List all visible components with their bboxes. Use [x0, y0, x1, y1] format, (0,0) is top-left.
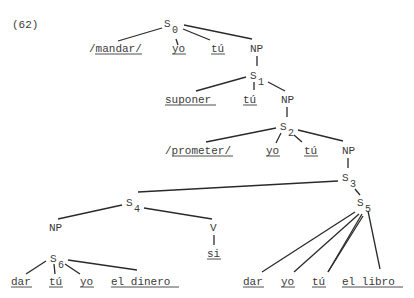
- syntax-tree-diagram: (62) S 0 /mandar/ yo tú NP S 1 suponer t…: [0, 0, 414, 298]
- svg-text:suponer: suponer: [165, 94, 211, 106]
- svg-text:S: S: [126, 197, 133, 209]
- svg-text:dar: dar: [11, 276, 31, 288]
- svg-text:S: S: [164, 18, 171, 30]
- svg-text:/prometer/: /prometer/: [165, 145, 231, 157]
- leaf-si: si: [207, 248, 221, 260]
- svg-text:2: 2: [288, 128, 294, 139]
- example-number: (62): [12, 19, 38, 31]
- node-np0: NP: [250, 43, 264, 55]
- node-s2: S 2: [280, 121, 294, 139]
- svg-text:tú: tú: [211, 43, 224, 55]
- svg-text:4: 4: [134, 204, 140, 215]
- svg-text:el libro: el libro: [342, 276, 395, 288]
- svg-text:yo: yo: [80, 276, 93, 288]
- leaves-s5: dar yo tú el libro: [243, 276, 403, 288]
- svg-text:3: 3: [350, 179, 356, 190]
- svg-text:yo: yo: [281, 276, 294, 288]
- node-np1: NP: [281, 94, 295, 106]
- svg-text:0: 0: [172, 25, 178, 36]
- svg-text:S: S: [342, 172, 349, 184]
- svg-text:el dinero: el dinero: [111, 276, 170, 288]
- node-np2: NP: [342, 145, 356, 157]
- svg-text:tú: tú: [304, 145, 317, 157]
- leaves-s1: suponer tú: [165, 94, 257, 106]
- node-s0: S 0: [164, 18, 178, 36]
- svg-text:S: S: [280, 121, 287, 133]
- node-v4: V: [210, 222, 217, 234]
- svg-text:yo: yo: [266, 145, 279, 157]
- svg-text:S: S: [50, 253, 57, 265]
- node-s1: S 1: [250, 70, 264, 88]
- svg-text:1: 1: [258, 77, 264, 88]
- leaves-s6: dar tú yo el dinero: [11, 276, 179, 288]
- node-s6: S 6: [50, 253, 64, 271]
- leaves-s0: /mandar/ yo tú: [89, 43, 225, 55]
- svg-text:tú: tú: [312, 276, 325, 288]
- svg-text:S: S: [357, 197, 364, 209]
- svg-text:S: S: [250, 70, 257, 82]
- node-s3: S 3: [342, 172, 356, 190]
- svg-text:tú: tú: [49, 276, 62, 288]
- svg-text:dar: dar: [243, 276, 263, 288]
- svg-text:yo: yo: [172, 43, 185, 55]
- node-np4: NP: [49, 222, 63, 234]
- svg-text:tú: tú: [243, 94, 256, 106]
- svg-text:6: 6: [58, 260, 64, 271]
- node-s4: S 4: [126, 197, 140, 215]
- svg-text:/mandar/: /mandar/: [89, 43, 142, 55]
- leaves-s2: /prometer/ yo tú: [165, 145, 318, 157]
